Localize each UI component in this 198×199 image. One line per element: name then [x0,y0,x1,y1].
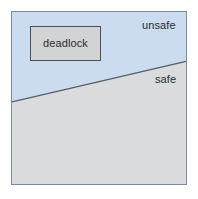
deadlock-box-label: deadlock [43,38,88,49]
safe-region-label: safe [155,74,176,85]
diagram-canvas: deadlock unsafe safe [0,0,198,199]
plot-frame: deadlock unsafe safe [11,11,187,185]
deadlock-box: deadlock [30,26,101,61]
unsafe-region-label: unsafe [142,20,176,31]
